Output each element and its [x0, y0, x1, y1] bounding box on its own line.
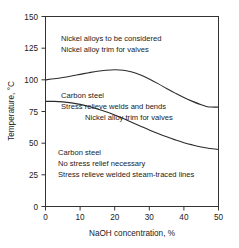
naoh-temperature-chart: 150 125 100 75 50 25 0 0 10 20 30 40 50: [0, 0, 239, 248]
annotation-line: Nickel alloys to be considered: [61, 34, 161, 43]
y-tick-label: 150: [24, 13, 38, 22]
annotation-line: Nickel alloy trim for valves: [85, 113, 173, 122]
x-tick-label: 0: [43, 213, 48, 222]
x-tick-label: 10: [76, 213, 86, 222]
annotation-line: No stress relief necessary: [58, 159, 146, 168]
y-tick-label: 100: [24, 76, 38, 85]
y-axis-title: Temperature, °C: [7, 81, 16, 141]
y-tick-label: 50: [29, 139, 39, 148]
x-axis-title: NaOH concentration, %: [89, 229, 175, 238]
annotation-line: Carbon steel: [61, 91, 104, 100]
annotation-line: Carbon steel: [58, 148, 101, 157]
bottom-region-note: Carbon steel No stress relief necessary …: [58, 148, 195, 179]
x-tick-label: 30: [145, 213, 155, 222]
y-tick-label: 125: [24, 44, 38, 53]
x-tick-label: 40: [179, 213, 189, 222]
annotation-line: Stress relieve welded steam-traced lines: [58, 170, 195, 179]
x-tick-label: 20: [110, 213, 120, 222]
chart-figure: 150 125 100 75 50 25 0 0 10 20 30 40 50: [0, 0, 239, 248]
annotation-line: Stress relieve welds and bends: [61, 102, 166, 111]
y-axis-ticks: [42, 17, 46, 207]
x-axis-ticks: [46, 207, 219, 211]
y-axis-tick-labels: 150 125 100 75 50 25 0: [24, 13, 38, 212]
annotation-line: Nickel alloy trim for valves: [61, 45, 149, 54]
top-region-note: Nickel alloys to be considered Nickel al…: [61, 34, 161, 54]
x-axis-tick-labels: 0 10 20 30 40 50: [43, 213, 223, 222]
middle-region-note: Carbon steel Stress relieve welds and be…: [61, 91, 173, 122]
y-tick-label: 75: [29, 108, 39, 117]
y-tick-label: 0: [33, 203, 38, 212]
x-tick-label: 50: [214, 213, 224, 222]
y-tick-label: 25: [29, 171, 39, 180]
